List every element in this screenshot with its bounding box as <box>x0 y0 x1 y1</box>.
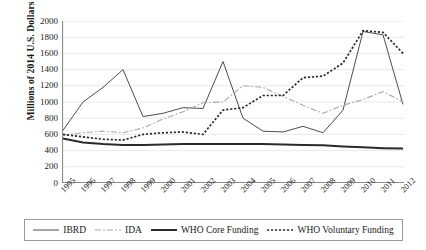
legend-label: IBRD <box>63 225 86 235</box>
x-tick-label: 2008 <box>319 176 337 194</box>
legend-swatch-thin-solid-icon <box>33 226 59 234</box>
x-tick-label: 2000 <box>159 176 177 194</box>
x-axis-tick-labels: 1995199619971998199920002001200220032004… <box>0 0 426 250</box>
legend-swatch-dash-dot-icon <box>95 226 121 234</box>
legend-swatch-thick-solid-icon <box>151 226 177 234</box>
chart-figure: Millions of 2014 U.S. Dollars 2000180016… <box>0 0 426 250</box>
x-tick-label: 2002 <box>199 176 217 194</box>
legend-item-who-core-funding[interactable]: WHO Core Funding <box>151 225 259 235</box>
legend-label: WHO Core Funding <box>181 225 259 235</box>
x-tick-label: 2011 <box>379 176 397 194</box>
legend-swatch-dotted-icon <box>267 226 293 234</box>
x-tick-label: 2005 <box>259 176 277 194</box>
x-tick-label: 2006 <box>279 176 297 194</box>
x-tick-label: 2007 <box>299 176 317 194</box>
x-tick-label: 2010 <box>359 176 377 194</box>
x-tick-label: 2001 <box>179 176 197 194</box>
x-tick-label: 1996 <box>79 176 97 194</box>
x-tick-label: 2009 <box>339 176 357 194</box>
chart-legend: IBRDIDAWHO Core FundingWHO Voluntary Fun… <box>24 219 403 241</box>
x-tick-label: 1998 <box>119 176 137 194</box>
x-tick-label: 2012 <box>399 176 417 194</box>
legend-item-ida[interactable]: IDA <box>95 225 142 235</box>
x-tick-label: 2004 <box>239 176 257 194</box>
legend-label: WHO Voluntary Funding <box>297 225 393 235</box>
x-tick-label: 2003 <box>219 176 237 194</box>
legend-label: IDA <box>125 225 142 235</box>
legend-item-ibrd[interactable]: IBRD <box>33 225 86 235</box>
x-tick-label: 1999 <box>139 176 157 194</box>
x-tick-label: 1995 <box>59 176 77 194</box>
x-tick-label: 1997 <box>99 176 117 194</box>
legend-item-who-voluntary-funding[interactable]: WHO Voluntary Funding <box>267 225 393 235</box>
